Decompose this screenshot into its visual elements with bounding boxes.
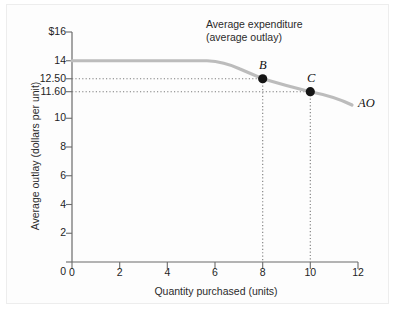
x-axis-title: Quantity purchased (units) bbox=[72, 285, 360, 297]
curve-annotation: Average expenditure (average outlay) bbox=[206, 18, 303, 44]
point-label-c: C bbox=[307, 71, 315, 86]
x-tick-4: 4 bbox=[147, 266, 187, 278]
data-point-b bbox=[258, 74, 267, 83]
annotation-line-2: (average outlay) bbox=[206, 31, 303, 44]
chart-figure: $16 14 12.50 11.60 10 8 6 4 2 0 0 2 4 6 … bbox=[0, 0, 395, 313]
y-axis-title: Average outlay (dollars per unit) bbox=[29, 61, 41, 251]
x-tick-10: 10 bbox=[290, 266, 330, 278]
curve-label-ao: AO bbox=[358, 96, 375, 111]
point-label-b: B bbox=[259, 58, 267, 73]
data-point-c bbox=[306, 87, 315, 96]
y-tick-marks bbox=[66, 32, 72, 262]
x-tick-0: 0 bbox=[52, 266, 92, 278]
annotation-line-1: Average expenditure bbox=[206, 18, 303, 31]
x-tick-6: 6 bbox=[195, 266, 235, 278]
x-tick-12: 12 bbox=[338, 266, 378, 278]
x-tick-2: 2 bbox=[100, 266, 140, 278]
reference-lines bbox=[72, 79, 310, 262]
x-tick-8: 8 bbox=[243, 266, 283, 278]
